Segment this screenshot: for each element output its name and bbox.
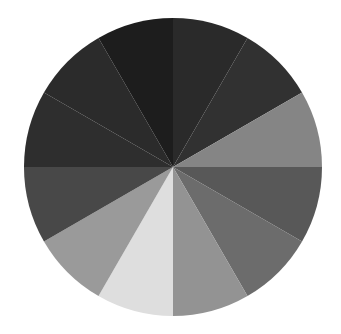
pie-slices — [24, 18, 322, 316]
pie-chart-canvas — [0, 0, 341, 334]
pie-chart — [0, 0, 341, 334]
